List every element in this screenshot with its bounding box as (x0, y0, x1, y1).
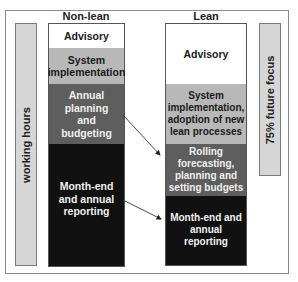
arrow-planning-to-rolling (123, 115, 160, 155)
arrow-month-end-to-month-end (123, 200, 161, 219)
arrows (0, 0, 298, 282)
